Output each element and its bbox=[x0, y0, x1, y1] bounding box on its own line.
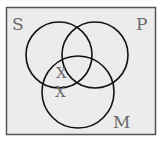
label-s: S bbox=[12, 14, 24, 34]
venn-diagram: S P M X X bbox=[0, 0, 162, 142]
mark-x-2: X bbox=[55, 83, 66, 101]
mark-x-1: X bbox=[56, 64, 67, 82]
label-p: P bbox=[136, 14, 147, 34]
label-m: M bbox=[113, 112, 130, 132]
universe-box bbox=[7, 8, 156, 135]
